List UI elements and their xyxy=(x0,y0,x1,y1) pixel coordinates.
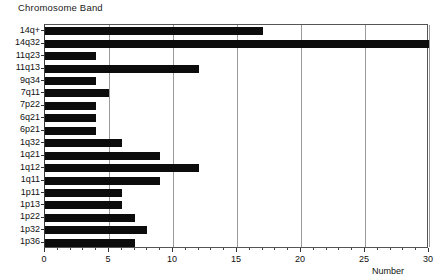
x-axis-major-tick xyxy=(236,248,237,252)
bar-row xyxy=(45,226,429,234)
x-axis-major-tick xyxy=(428,248,429,252)
x-axis-minor-tick xyxy=(390,248,391,250)
bar xyxy=(45,27,263,35)
x-axis-major-tick xyxy=(44,248,45,252)
bar-chart: Chromosome Band Number 14q+14q3211q2311q… xyxy=(0,0,442,280)
bar xyxy=(45,177,160,185)
bar xyxy=(45,226,147,234)
y-axis-tick-label: 1p11 xyxy=(0,188,40,197)
x-axis-minor-tick xyxy=(402,248,403,250)
x-axis-minor-tick xyxy=(262,248,263,250)
x-axis-minor-tick xyxy=(82,248,83,250)
y-axis-tick-mark xyxy=(41,204,44,205)
y-axis-tick-label: 7q11 xyxy=(0,88,40,97)
y-axis-tick-label: 14q32 xyxy=(0,38,40,47)
bar-row xyxy=(45,89,429,97)
bar-row xyxy=(45,114,429,122)
bar-row xyxy=(45,139,429,147)
x-axis-tick-label: 15 xyxy=(231,254,241,264)
x-axis-minor-tick xyxy=(159,248,160,250)
y-axis-tick-label: 1p13 xyxy=(0,200,40,209)
y-axis-tick-label: 1q11 xyxy=(0,175,40,184)
y-axis-tick-label: 6p21 xyxy=(0,125,40,134)
y-axis-tick-mark xyxy=(41,229,44,230)
bar-row xyxy=(45,27,429,35)
bar-row xyxy=(45,239,429,247)
x-axis-minor-tick xyxy=(249,248,250,250)
x-axis-minor-tick xyxy=(338,248,339,250)
chart-title: Chromosome Band xyxy=(18,2,103,13)
y-axis-tick-mark xyxy=(41,117,44,118)
bar xyxy=(45,40,429,48)
bar xyxy=(45,139,122,147)
bar xyxy=(45,239,135,247)
x-axis-major-tick xyxy=(300,248,301,252)
y-axis-tick-mark xyxy=(41,43,44,44)
x-axis-title: Number xyxy=(372,266,404,276)
x-axis-minor-tick xyxy=(95,248,96,250)
y-axis-tick-mark xyxy=(41,92,44,93)
y-axis-tick-label: 1q12 xyxy=(0,163,40,172)
y-axis-tick-mark xyxy=(41,180,44,181)
bar-row xyxy=(45,189,429,197)
x-axis-major-tick xyxy=(172,248,173,252)
x-axis-tick-label: 0 xyxy=(41,254,46,264)
bar-row xyxy=(45,52,429,60)
y-axis-tick-mark xyxy=(41,242,44,243)
bar xyxy=(45,89,109,97)
x-axis-major-tick xyxy=(364,248,365,252)
x-axis-minor-tick xyxy=(287,248,288,250)
x-axis-minor-tick xyxy=(146,248,147,250)
y-axis-tick-label: 14q+ xyxy=(0,26,40,35)
bar xyxy=(45,152,160,160)
y-axis-tick-mark xyxy=(41,192,44,193)
x-axis-minor-tick xyxy=(274,248,275,250)
x-axis-minor-tick xyxy=(326,248,327,250)
bar-row xyxy=(45,201,429,209)
x-axis-minor-tick xyxy=(377,248,378,250)
bar xyxy=(45,102,96,110)
x-axis-minor-tick xyxy=(223,248,224,250)
y-axis-tick-label: 11q13 xyxy=(0,63,40,72)
y-axis-tick-label: 6q21 xyxy=(0,113,40,122)
bar xyxy=(45,65,199,73)
bar xyxy=(45,127,96,135)
y-axis-tick-label: 1q32 xyxy=(0,138,40,147)
y-axis-tick-mark xyxy=(41,30,44,31)
x-axis-tick-label: 10 xyxy=(167,254,177,264)
y-axis-tick-label: 11q23 xyxy=(0,51,40,60)
bar xyxy=(45,114,96,122)
gridline xyxy=(429,25,430,247)
x-axis-minor-tick xyxy=(415,248,416,250)
bar-row xyxy=(45,152,429,160)
y-axis-tick-mark xyxy=(41,55,44,56)
bar-row xyxy=(45,65,429,73)
y-axis-tick-label: 1q21 xyxy=(0,150,40,159)
x-axis-minor-tick xyxy=(351,248,352,250)
y-axis-tick-mark xyxy=(41,80,44,81)
x-axis-major-tick xyxy=(108,248,109,252)
y-axis-tick-mark xyxy=(41,155,44,156)
x-axis-tick-label: 5 xyxy=(105,254,110,264)
x-axis-minor-tick xyxy=(210,248,211,250)
x-axis-minor-tick xyxy=(57,248,58,250)
bar xyxy=(45,77,96,85)
bar-row xyxy=(45,214,429,222)
y-axis-tick-label: 7p22 xyxy=(0,100,40,109)
bar xyxy=(45,189,122,197)
plot-area xyxy=(44,24,428,248)
y-axis-tick-mark xyxy=(41,217,44,218)
bar xyxy=(45,214,135,222)
x-axis-minor-tick xyxy=(134,248,135,250)
y-axis-tick-label: 9q34 xyxy=(0,76,40,85)
x-axis-minor-tick xyxy=(185,248,186,250)
bar-row xyxy=(45,177,429,185)
bar-row xyxy=(45,102,429,110)
y-axis-tick-mark xyxy=(41,142,44,143)
bar xyxy=(45,201,122,209)
bar-row xyxy=(45,127,429,135)
y-axis-tick-mark xyxy=(41,68,44,69)
x-axis-minor-tick xyxy=(313,248,314,250)
bar xyxy=(45,164,199,172)
x-axis-minor-tick xyxy=(70,248,71,250)
